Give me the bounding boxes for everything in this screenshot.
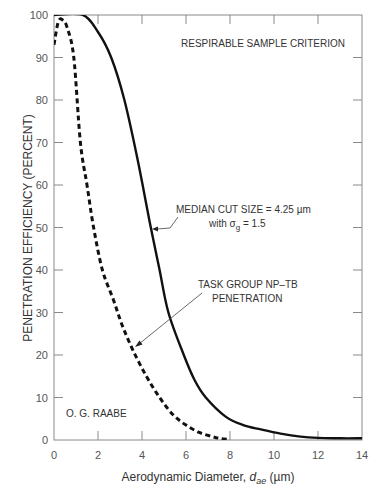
median-cut-arrowhead xyxy=(152,227,158,232)
y-tick-label: 80 xyxy=(36,94,48,106)
y-tick-label: 70 xyxy=(36,137,48,149)
y-tick-label: 60 xyxy=(36,179,48,191)
sigma-label: with σg = 1.5 xyxy=(208,218,266,232)
task-group-arrowhead xyxy=(135,341,143,348)
y-tick-label: 0 xyxy=(42,434,48,446)
y-axis-title: PENETRATION EFFICIENCY (PERCENT) xyxy=(21,114,35,342)
chart-title: RESPIRABLE SAMPLE CRITERION xyxy=(181,38,345,49)
x-axis-title: Aerodynamic Diameter, dae (µm) xyxy=(121,470,294,486)
x-axis-title-unit: (µm) xyxy=(266,470,294,484)
task-group-penetration-curve xyxy=(54,19,230,440)
y-tick-label: 30 xyxy=(36,307,48,319)
x-axis-ticks: 02468101214 xyxy=(51,15,368,461)
x-tick-label: 4 xyxy=(139,449,145,461)
x-tick-label: 2 xyxy=(95,449,101,461)
sigma-value: = 1.5 xyxy=(240,218,266,229)
author-label: O. G. RAABE xyxy=(66,408,127,419)
plot-frame xyxy=(54,15,362,440)
x-tick-label: 0 xyxy=(51,449,57,461)
penetration-label: PENETRATION xyxy=(212,293,282,304)
y-tick-label: 10 xyxy=(36,392,48,404)
y-tick-label: 90 xyxy=(36,52,48,64)
y-tick-label: 100 xyxy=(30,9,48,21)
x-tick-label: 12 xyxy=(312,449,324,461)
data-series xyxy=(54,14,362,440)
task-group-leader-line xyxy=(139,293,202,344)
x-axis-title-sub: ae xyxy=(256,476,266,486)
x-tick-label: 6 xyxy=(183,449,189,461)
y-tick-label: 40 xyxy=(36,264,48,276)
penetration-efficiency-chart: 02468101214 0102030405060708090100 RESPI… xyxy=(0,0,381,500)
x-axis-title-prefix: Aerodynamic Diameter, xyxy=(121,470,249,484)
task-group-label: TASK GROUP NP–TB xyxy=(198,279,298,290)
y-tick-label: 50 xyxy=(36,222,48,234)
x-tick-label: 14 xyxy=(356,449,368,461)
x-tick-label: 10 xyxy=(268,449,280,461)
sigma-label-text: with σ xyxy=(208,218,237,229)
y-tick-label: 20 xyxy=(36,349,48,361)
x-tick-label: 8 xyxy=(227,449,233,461)
respirable-criterion-curve xyxy=(54,14,362,439)
median-cut-leader-line xyxy=(157,217,178,229)
median-cut-label: MEDIAN CUT SIZE = 4.25 µm xyxy=(176,204,311,215)
